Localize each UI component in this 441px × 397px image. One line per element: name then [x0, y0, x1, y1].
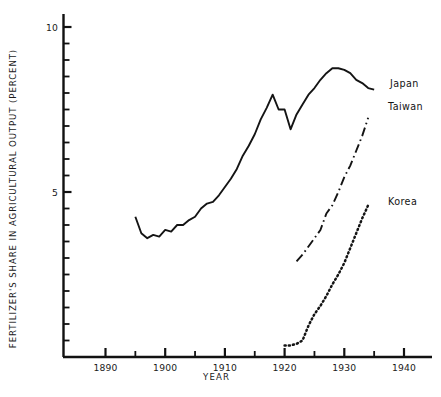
series-label-japan: Japan	[390, 78, 419, 89]
series-line-korea	[285, 205, 369, 345]
axes	[63, 14, 432, 357]
series-line-japan	[135, 68, 374, 238]
data-series-lines	[135, 68, 374, 345]
x-axis-title-text: YEAR	[203, 372, 230, 382]
x-axis-ticks	[106, 348, 405, 357]
x-axis-title: YEAR	[0, 372, 441, 382]
series-label-korea: Korea	[388, 196, 417, 207]
y-axis-title: FERTILIZER'S SHARE IN AGRICULTURAL OUTPU…	[0, 0, 26, 397]
plot-area	[0, 0, 441, 397]
y-tick-label: 10	[36, 22, 58, 33]
series-label-taiwan: Taiwan	[388, 101, 423, 112]
chart-container: FERTILIZER'S SHARE IN AGRICULTURAL OUTPU…	[0, 0, 441, 397]
series-line-taiwan	[297, 118, 369, 262]
y-tick-label: 5	[36, 187, 58, 198]
